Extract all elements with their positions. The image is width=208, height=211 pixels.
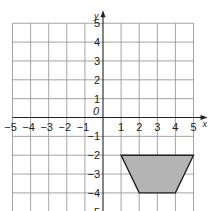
- x-tick-label: −5: [4, 121, 17, 133]
- y-tick-label: 2: [94, 74, 100, 86]
- x-tick-label: −4: [22, 121, 35, 133]
- y-tick-label: 4: [94, 36, 100, 48]
- origin-label: 0: [93, 105, 100, 117]
- x-tick-label: 2: [136, 121, 142, 133]
- x-tick-label: 3: [154, 121, 160, 133]
- x-tick-label: −2: [59, 121, 72, 133]
- y-tick-label: 3: [94, 55, 100, 67]
- x-axis-label: x: [202, 119, 208, 129]
- trapezium-polygon: [121, 155, 193, 193]
- coordinate-grid-svg: −5−4−3−2−11234554321−1−2−3−4−50xy: [0, 0, 207, 211]
- x-tick-label: −3: [40, 121, 53, 133]
- x-tick-label: 5: [190, 121, 196, 133]
- x-tick-label: 1: [118, 121, 124, 133]
- y-axis-label: y: [93, 11, 99, 21]
- y-tick-label: 1: [94, 93, 100, 105]
- y-axis-arrow-icon: [101, 10, 106, 17]
- y-tick-label: −3: [87, 168, 100, 180]
- y-tick-label: −5: [87, 206, 100, 211]
- trapezium-shape: [121, 155, 193, 193]
- y-tick-label: −4: [87, 187, 100, 199]
- y-tick-label: −1: [87, 130, 100, 142]
- x-tick-label: 4: [172, 121, 178, 133]
- coordinate-grid-diagram: −5−4−3−2−11234554321−1−2−3−4−50xy: [0, 0, 207, 211]
- y-tick-label: −2: [87, 149, 100, 161]
